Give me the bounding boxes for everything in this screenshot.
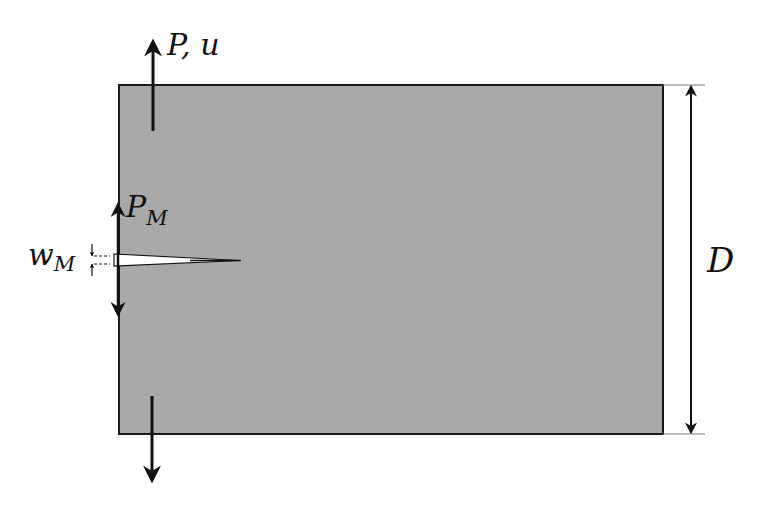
label-load-top: P, u [166, 27, 220, 62]
label-mouth-load-sub: M [145, 206, 168, 230]
label-mouth-load-main: P [125, 189, 147, 224]
label-depth: D [706, 240, 734, 280]
diagram-canvas: P, u PM wM D [0, 0, 761, 507]
label-mouth-opening: wM [28, 237, 76, 276]
label-mouth-opening-main: w [28, 237, 54, 272]
label-mouth-opening-sub: M [53, 252, 76, 276]
